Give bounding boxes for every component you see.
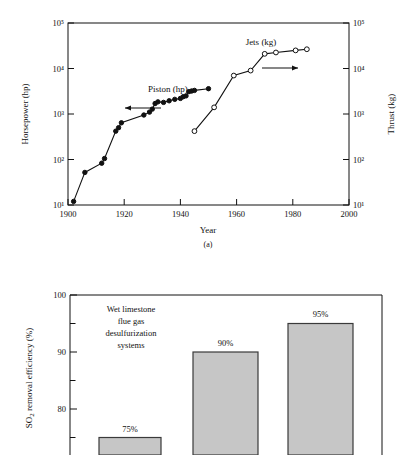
ytick-label: 10⁴	[53, 64, 65, 74]
data-point	[262, 51, 267, 56]
chart-annotation-block: Wet limestone flue gas desulfurization s…	[106, 304, 158, 350]
so2-removal-svg: 100 90 80 SO2 removal efficiency (%) 75%…	[0, 250, 419, 455]
bar-3-value-label: 95%	[313, 309, 329, 319]
jets-series-label: Jets (kg)	[246, 37, 277, 47]
y2tick-label: 10³	[353, 109, 365, 119]
data-point	[184, 94, 188, 98]
ytick-label: 10⁵	[53, 18, 65, 28]
engine-power-figure: 10¹ 10² 10³ 10⁴ 10⁵ 10¹ 10² 10³ 10⁴ 10⁵	[0, 0, 419, 250]
y-axis-ticks	[70, 295, 77, 438]
y-axis-ticklabels: 100 90 80	[53, 290, 66, 414]
piston-series-label: Piston (hp)	[148, 84, 188, 94]
data-point	[116, 126, 120, 130]
data-point	[100, 161, 104, 165]
ytick-label: 100	[53, 290, 66, 300]
data-point	[102, 156, 106, 160]
xtick-label: 1920	[116, 209, 133, 219]
y2tick-label: 10⁵	[353, 18, 365, 28]
xtick-label: 1900	[60, 209, 77, 219]
data-point	[274, 50, 279, 55]
data-point	[167, 99, 171, 103]
figure-caption-a: (a)	[204, 240, 213, 249]
left-arrow-icon	[125, 105, 161, 110]
so2-removal-figure: 100 90 80 SO2 removal efficiency (%) 75%…	[0, 250, 419, 455]
data-point	[161, 100, 165, 104]
data-point	[142, 113, 146, 117]
y2tick-label: 10²	[353, 155, 365, 165]
y2-axis-title: Thrust (kg)	[386, 94, 396, 135]
data-point	[156, 100, 160, 104]
data-point	[231, 73, 236, 78]
data-point	[192, 129, 197, 134]
annotation-line-1: Wet limestone	[107, 304, 156, 314]
left-y-axis-ticklabels: 10¹ 10² 10³ 10⁴ 10⁵	[53, 18, 65, 210]
xtick-label: 1980	[284, 209, 301, 219]
x-axis-title: Year	[200, 225, 217, 235]
bar-1-value-label: 75%	[122, 424, 138, 434]
bar-2[interactable]	[193, 352, 258, 455]
y2tick-label: 10⁴	[353, 64, 365, 74]
xtick-label: 1960	[228, 209, 245, 219]
ytick-label: 10²	[53, 155, 65, 165]
xtick-label: 2000	[341, 209, 358, 219]
xtick-label: 1940	[172, 209, 189, 219]
x-axis-ticklabels: 1900 1920 1940 1960 1980 2000	[60, 209, 358, 219]
x-axis-ticks	[68, 199, 349, 205]
bar-2-value-label: 90%	[218, 338, 234, 348]
annotation-line-4: systems	[118, 340, 145, 350]
bar-1[interactable]	[99, 438, 161, 455]
right-y-axis-ticklabels: 10¹ 10² 10³ 10⁴ 10⁵	[353, 18, 365, 210]
engine-power-svg: 10¹ 10² 10³ 10⁴ 10⁵ 10¹ 10² 10³ 10⁴ 10⁵	[0, 0, 419, 250]
ytick-label: 10³	[53, 109, 65, 119]
data-point	[293, 48, 298, 53]
annotation-line-2: flue gas	[118, 316, 145, 326]
data-point	[119, 121, 123, 125]
ytick-label: 90	[58, 347, 67, 357]
data-point	[83, 170, 87, 174]
data-point	[71, 199, 75, 203]
data-point	[206, 86, 210, 90]
data-point	[248, 68, 253, 73]
piston-series	[71, 86, 210, 203]
annotation-line-3: desulfurization	[106, 328, 158, 338]
left-y-axis-ticks	[68, 23, 74, 205]
bar-3[interactable]	[288, 324, 353, 455]
y-axis-title: SO2 removal efficiency (%)	[24, 328, 36, 429]
right-y-axis-ticks	[343, 23, 349, 205]
y-axis-title: Horsepower (hp)	[20, 83, 30, 144]
right-arrow-icon	[262, 65, 298, 70]
data-point	[192, 88, 196, 92]
data-point	[173, 97, 177, 101]
ytick-label: 80	[58, 404, 67, 414]
data-point	[212, 105, 217, 110]
data-point	[304, 47, 309, 52]
